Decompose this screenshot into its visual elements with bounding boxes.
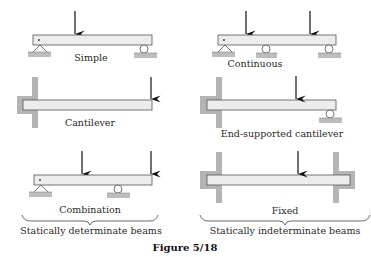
panel-fixed: Fixed	[200, 151, 355, 216]
beam	[34, 175, 152, 185]
pin-support-icon	[29, 185, 52, 197]
label-statically-indeterminate-beams: Statically indeterminate beams	[210, 225, 361, 236]
beam	[207, 100, 336, 110]
panel-combination: Combination	[29, 151, 152, 215]
beam-types-figure: Simple Continuous Cantile	[0, 0, 371, 257]
label-combination: Combination	[59, 204, 121, 215]
panel-continuous: Continuous	[212, 11, 341, 69]
figure-caption: Figure 5/18	[153, 242, 218, 253]
roller-support-icon	[107, 185, 130, 198]
roller-support-icon	[318, 45, 341, 58]
beam-end-dot	[38, 39, 40, 41]
beam-end-dot	[39, 179, 41, 181]
label-statically-determinate-beams: Statically determinate beams	[20, 225, 162, 236]
pin-support-icon	[212, 45, 235, 57]
label-fixed: Fixed	[272, 205, 299, 216]
roller-support-icon	[256, 45, 277, 58]
roller-support-icon	[319, 110, 342, 123]
beam-end-dot	[223, 39, 225, 41]
brace-indeterminate	[200, 215, 370, 225]
label-cantilever: Cantilever	[65, 117, 116, 128]
pin-support-icon	[28, 45, 51, 57]
panel-simple: Simple	[28, 11, 157, 63]
label-simple: Simple	[74, 52, 108, 63]
label-continuous: Continuous	[228, 58, 283, 69]
beam	[33, 35, 152, 45]
beam	[207, 175, 350, 185]
label-end-supported-cantilever: End-supported cantilever	[221, 128, 344, 139]
brace-determinate	[22, 215, 158, 225]
roller-support-icon	[134, 45, 157, 58]
beam	[218, 35, 336, 45]
panel-end-supported-cantilever: End-supported cantilever	[200, 76, 344, 139]
panel-cantilever: Cantilever	[17, 77, 152, 128]
beam	[23, 100, 152, 110]
